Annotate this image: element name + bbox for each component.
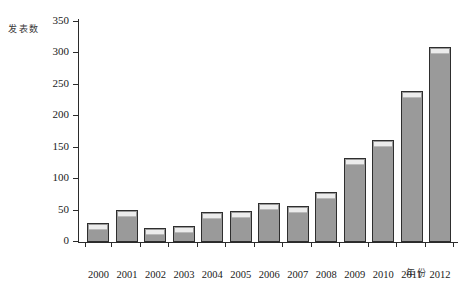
bar (429, 47, 451, 242)
bar-highlight (374, 142, 392, 147)
bar-highlight (260, 205, 278, 210)
y-axis-label: 发表数 (8, 22, 40, 35)
bar (116, 210, 138, 242)
y-axis-tick: 250 (73, 84, 78, 85)
bar (344, 158, 366, 242)
y-axis-tick: 200 (73, 115, 78, 116)
bar (258, 203, 280, 242)
y-axis-tick-label: 350 (53, 14, 70, 27)
y-axis-tick-label: 150 (53, 140, 70, 153)
bar (87, 223, 109, 242)
bar (287, 206, 309, 242)
bar-highlight (232, 213, 250, 218)
y-axis-tick: 50 (73, 210, 78, 211)
bar-chart: 发表数 年份 050100150200250300350 20002001200… (0, 0, 468, 291)
bar (144, 228, 166, 242)
y-axis-tick-label: 100 (53, 171, 70, 184)
bar-highlight (203, 214, 221, 219)
bar-highlight (317, 194, 335, 199)
x-axis-tick (85, 243, 86, 247)
x-axis-tick-label: 2012 (420, 269, 460, 281)
x-axis-tick (396, 243, 397, 247)
y-axis-tick-label: 0 (64, 234, 70, 247)
y-axis-tick-label: 200 (53, 108, 70, 121)
x-axis-tick (311, 243, 312, 247)
y-axis-tick: 0 (73, 241, 78, 242)
bar (372, 140, 394, 242)
bar (230, 211, 252, 242)
y-axis-tick: 350 (73, 21, 78, 22)
x-axis-tick (111, 243, 112, 247)
bar-highlight (403, 93, 421, 98)
x-axis-tick (453, 243, 454, 247)
bar (315, 192, 337, 242)
y-axis-tick: 150 (73, 147, 78, 148)
y-axis-tick: 100 (73, 178, 78, 179)
bar-highlight (89, 225, 107, 230)
bar (173, 226, 195, 242)
bar (201, 212, 223, 242)
x-axis-tick (339, 243, 340, 247)
y-axis-tick-label: 50 (58, 203, 69, 216)
x-axis-tick (282, 243, 283, 247)
x-axis-tick (168, 243, 169, 247)
y-axis-tick: 300 (73, 52, 78, 53)
bar-highlight (346, 160, 364, 165)
y-axis-tick-label: 250 (53, 77, 70, 90)
bar-highlight (175, 228, 193, 233)
x-axis-tick (225, 243, 226, 247)
x-axis-line (78, 242, 458, 243)
bar-highlight (118, 212, 136, 217)
y-axis-line (78, 19, 79, 243)
x-axis-tick (140, 243, 141, 247)
x-axis-tick (254, 243, 255, 247)
bar-highlight (146, 230, 164, 235)
plot-area: 050100150200250300350 200020012002200320… (78, 19, 458, 243)
x-axis-tick (368, 243, 369, 247)
bar-highlight (431, 49, 449, 54)
bar-highlight (289, 208, 307, 213)
y-axis-tick-label: 300 (53, 45, 70, 58)
bar (401, 91, 423, 242)
x-axis-tick (425, 243, 426, 247)
x-axis-tick (197, 243, 198, 247)
